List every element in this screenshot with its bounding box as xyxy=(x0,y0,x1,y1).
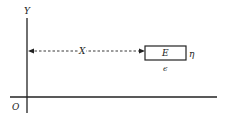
box-width-label: ϵ xyxy=(163,64,168,73)
arrowhead-right-icon xyxy=(139,49,145,54)
origin-label: O xyxy=(12,102,20,112)
diagram-canvas: Y O X E η ϵ xyxy=(0,0,229,116)
y-axis-label: Y xyxy=(24,6,31,16)
distance-label: X xyxy=(78,46,86,56)
box-label: E xyxy=(161,48,169,58)
arrowhead-left-icon xyxy=(28,49,34,54)
box-height-label: η xyxy=(189,49,195,59)
